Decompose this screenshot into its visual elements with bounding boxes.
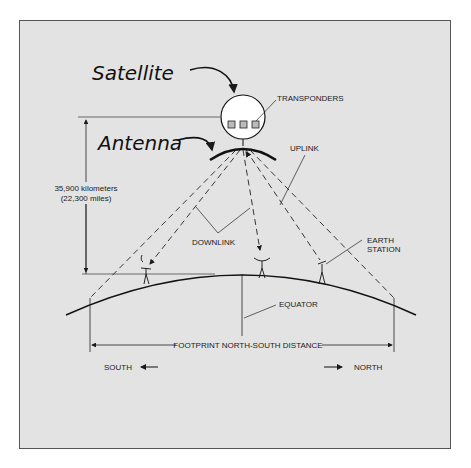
- antenna-label: Antenna: [96, 131, 182, 155]
- equator-label: EQUATOR: [279, 300, 318, 309]
- satellite-label: Satellite: [92, 61, 174, 85]
- antenna-arrow-icon: [178, 138, 212, 150]
- distance-mi-label: (22,300 miles): [61, 194, 112, 203]
- satellite-body: [221, 95, 265, 139]
- downlink-label: DOWNLINK: [192, 238, 236, 247]
- transponder-icon: [240, 121, 247, 128]
- satellite-arrow-icon: [190, 68, 234, 92]
- south-label: SOUTH: [104, 363, 132, 372]
- footprint-label: FOOTPRINT NORTH-SOUTH DISTANCE: [173, 341, 322, 350]
- earth-station-icon: [141, 255, 151, 284]
- earth-surface: [66, 275, 416, 315]
- transponder-icon: [228, 121, 235, 128]
- satellite-diagram: Satellite Antenna TRANSPONDERS 35,900 ki…: [0, 0, 471, 468]
- uplink-label: UPLINK: [290, 144, 320, 153]
- transponders-label: TRANSPONDERS: [277, 94, 344, 103]
- north-label: NORTH: [354, 363, 383, 372]
- earth-station-label-2: STATION: [367, 245, 401, 254]
- distance-km-label: 35,900 kilometers: [54, 184, 117, 193]
- earth-station-icon: [318, 261, 326, 284]
- transponder-icon: [252, 121, 259, 128]
- earth-station-label-1: EARTH: [367, 236, 394, 245]
